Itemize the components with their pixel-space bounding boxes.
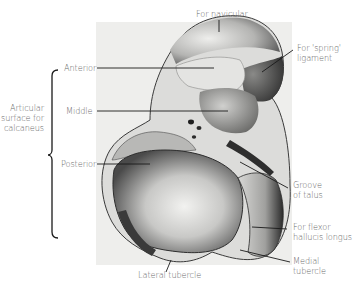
label-middle: Middle: [66, 106, 92, 116]
label-medial-2: tubercle: [293, 266, 326, 276]
label-fhl-2: hallucis longus: [293, 232, 352, 242]
foramen: [192, 135, 196, 139]
label-lateral-tubercle: Lateral tubercle: [138, 270, 201, 280]
label-groove-2: of talus: [293, 190, 323, 200]
label-spring-ligament-2: ligament: [297, 53, 332, 63]
label-articular-1: Articular: [4, 103, 44, 113]
foramen: [188, 120, 194, 125]
talus-diagram: For navicular For 'spring' ligament Ante…: [0, 0, 355, 290]
label-medial-1: Medial: [293, 256, 319, 266]
label-spring-ligament-1: For 'spring': [297, 43, 341, 53]
foramen: [197, 126, 202, 130]
label-articular-3: calcaneus: [0, 123, 44, 133]
label-for-navicular: For navicular: [196, 9, 248, 19]
label-articular-2: surface for: [0, 113, 44, 123]
label-posterior: Posterior: [61, 159, 96, 169]
label-fhl-1: For flexor: [293, 222, 330, 232]
bracket: [48, 70, 58, 238]
label-groove-1: Groove: [293, 180, 322, 190]
label-anterior: Anterior: [64, 63, 96, 73]
